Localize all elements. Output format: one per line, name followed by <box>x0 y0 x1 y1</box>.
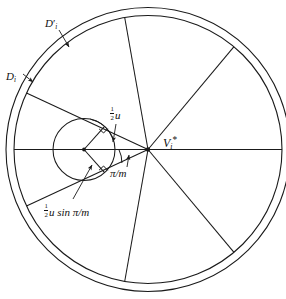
label-velocity: Vi* <box>163 136 177 151</box>
hub-center-point <box>146 147 150 151</box>
label-outer-diameter: D′i <box>45 18 57 31</box>
label-inner-diameter: Di <box>6 71 16 84</box>
diagram-canvas <box>0 0 286 299</box>
label-half-u: 12u <box>110 106 120 121</box>
label-inner-diameter-sub: i <box>14 76 16 84</box>
leader-inner-diameter <box>23 74 33 82</box>
spoke-lower-right <box>148 150 234 253</box>
spoke-lower-left-tangent <box>27 150 149 207</box>
label-chord: 12u sin π/m <box>44 203 89 218</box>
chord-upper <box>84 126 105 149</box>
leader-angle <box>127 155 129 167</box>
label-velocity-sup: * <box>173 135 178 145</box>
label-angle-text: π/m <box>110 167 127 179</box>
label-chord-rest: sin π/m <box>57 206 89 218</box>
fraction-one-half: 12 <box>110 106 114 121</box>
spoke-upper-left-tangent <box>27 93 149 150</box>
label-outer-diameter-sub: i <box>55 23 57 31</box>
label-outer-diameter-base: D <box>45 17 53 29</box>
fraction-denominator-chord: 2 <box>44 211 48 218</box>
diagram-figure: D′i Di 12u Vi* π/m 12u sin π/m <box>0 0 286 299</box>
fraction-one-half-chord: 12 <box>44 203 48 218</box>
spoke-lower <box>125 150 148 282</box>
angle-arc-pi-over-m <box>119 150 122 164</box>
arc-half-u <box>90 119 112 138</box>
spoke-upper <box>125 18 148 150</box>
spoke-upper-right <box>148 47 234 150</box>
label-half-u-symbol: u <box>115 109 121 121</box>
fraction-denominator: 2 <box>110 114 114 121</box>
label-inner-diameter-base: D <box>6 70 14 82</box>
label-angle: π/m <box>110 168 127 179</box>
leader-chord <box>73 165 92 199</box>
chord-lower <box>84 150 105 173</box>
